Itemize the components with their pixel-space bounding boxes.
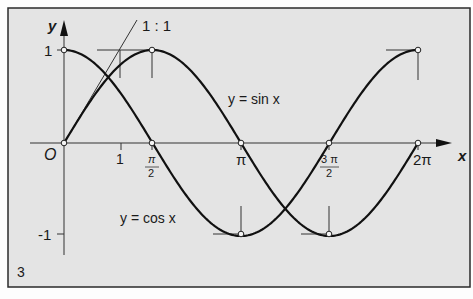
figure-number: 3 — [17, 264, 25, 280]
x-tick-label-pi-half-num: π — [148, 153, 156, 165]
x-tick-label-3pi-half-num: 3 π — [321, 153, 338, 165]
x-axis-label: x — [457, 147, 467, 164]
y-tick-label-1: 1 — [44, 42, 52, 59]
cos-label: y = cos x — [120, 210, 176, 226]
x-tick-label-2pi: 2π — [413, 151, 432, 168]
x-tick-label-3pi-half-den: 2 — [326, 167, 332, 179]
sin-cos-diagram: y x O 1 -1 1 π 2 π 3 π 2 2π 1 : 1 y = si… — [0, 0, 473, 299]
x-tick-label-pi: π — [236, 151, 246, 168]
x-tick-label-pi-half-den: 2 — [148, 167, 154, 179]
y-axis-label: y — [47, 17, 57, 34]
y-tick-label-neg1: -1 — [38, 226, 51, 243]
slope-label: 1 : 1 — [142, 17, 171, 34]
sin-label: y = sin x — [228, 91, 280, 107]
x-tick-label-1: 1 — [116, 151, 124, 167]
origin-label: O — [44, 146, 56, 163]
